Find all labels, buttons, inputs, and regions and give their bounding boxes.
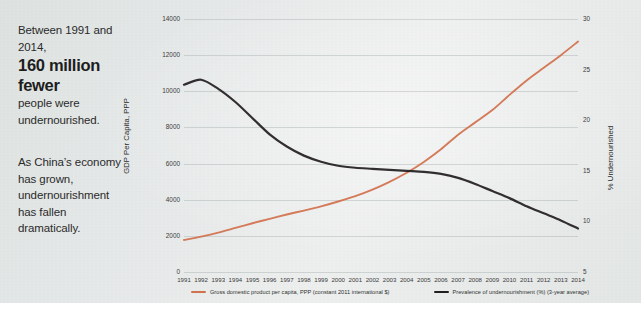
screenshot-root: Between 1991 and 2014, 160 million fewer… — [0, 0, 641, 318]
x-axis-tick-label: 2014 — [571, 276, 585, 283]
legend-label: Gross domestic product per capita, PPP (… — [210, 289, 390, 295]
x-axis-tick-label: 2003 — [383, 276, 397, 283]
x-axis-tick-label: 2001 — [349, 276, 363, 283]
y-axis-right-tick-label: 20 — [583, 116, 590, 123]
slide-card: Between 1991 and 2014, 160 million fewer… — [0, 0, 641, 303]
caption-block: Between 1991 and 2014, 160 million fewer… — [18, 22, 146, 237]
x-axis-tick-label: 1994 — [229, 276, 243, 283]
x-axis-tick-label: 2005 — [417, 276, 431, 283]
caption-line: As China’s economy — [18, 154, 146, 171]
y-axis-left-tick-label: 14000 — [162, 15, 180, 22]
chart-legend: Gross domestic product per capita, PPP (… — [150, 289, 630, 295]
caption-line: Between 1991 and — [18, 22, 146, 39]
x-axis-tick-label: 1992 — [194, 276, 208, 283]
caption-line: people were — [18, 95, 146, 112]
x-axis-tick-label: 1991 — [177, 276, 191, 283]
gridline — [184, 272, 578, 273]
x-axis-tick-label: 1995 — [246, 276, 260, 283]
x-axis-tick-label: 1993 — [211, 276, 225, 283]
y-axis-left-tick-label: 2000 — [166, 232, 180, 239]
y-axis-left-tick-label: 6000 — [166, 160, 180, 167]
x-axis-tick-label: 2013 — [554, 276, 568, 283]
caption-line: has fallen — [18, 204, 146, 221]
y-axis-right-tick-label: 25 — [583, 66, 590, 73]
x-axis-tick-label: 2012 — [537, 276, 551, 283]
series-lines — [184, 19, 578, 272]
caption-line: 2014, — [18, 39, 146, 56]
caption-paragraph-1: Between 1991 and 2014, 160 million fewer… — [18, 22, 146, 128]
x-axis-tick-label: 2011 — [520, 276, 533, 283]
y-axis-left-tick-label: 12000 — [162, 51, 180, 58]
x-axis-tick-label: 1999 — [314, 276, 328, 283]
legend-swatch-icon — [434, 291, 449, 293]
caption-headline: 160 million — [18, 55, 146, 75]
legend-swatch-icon — [191, 291, 206, 293]
x-axis-tick-label: 2002 — [366, 276, 380, 283]
legend-item: Prevalence of undernourishment (%) (3-ye… — [434, 289, 590, 295]
x-axis-tick-label: 2008 — [468, 276, 482, 283]
series-line — [184, 42, 578, 240]
y-axis-right-tick-label: 10 — [583, 217, 590, 224]
y-axis-left-tick-label: 0 — [176, 268, 180, 275]
y-axis-right-tick-label: 5 — [583, 268, 587, 275]
caption-line: dramatically. — [18, 220, 146, 237]
chart: GDP Per Capita, PPP % Undernourished 020… — [150, 8, 628, 308]
x-axis-tick-label: 2004 — [400, 276, 414, 283]
x-axis-tick-label: 1996 — [263, 276, 277, 283]
legend-item: Gross domestic product per capita, PPP (… — [191, 289, 390, 295]
series-line — [184, 80, 578, 229]
x-axis-tick-label: 2007 — [451, 276, 465, 283]
x-axis-tick-label: 2009 — [486, 276, 500, 283]
caption-line: undernourishment — [18, 187, 146, 204]
y-axis-left-tick-label: 8000 — [166, 123, 180, 130]
y-axis-right-title: % Undernourished — [606, 126, 615, 191]
x-axis-tick-label: 1997 — [280, 276, 294, 283]
x-axis-tick-label: 2000 — [331, 276, 345, 283]
y-axis-right-tick-label: 15 — [583, 167, 590, 174]
x-axis-tick-label: 1998 — [297, 276, 311, 283]
y-axis-right-tick-label: 30 — [583, 15, 590, 22]
caption-headline: fewer — [18, 75, 146, 95]
y-axis-left-tick-label: 4000 — [166, 196, 180, 203]
plot-area: 02000400060008000100001200014000 5101520… — [184, 19, 578, 272]
legend-label: Prevalence of undernourishment (%) (3-ye… — [453, 289, 590, 295]
caption-line: undernourished. — [18, 112, 146, 129]
caption-line: has grown, — [18, 171, 146, 188]
caption-paragraph-2: As China’s economy has grown, undernouri… — [18, 154, 146, 237]
x-axis-tick-label: 2006 — [434, 276, 448, 283]
x-axis-tick-label: 2010 — [503, 276, 517, 283]
y-axis-left-tick-label: 10000 — [162, 87, 180, 94]
